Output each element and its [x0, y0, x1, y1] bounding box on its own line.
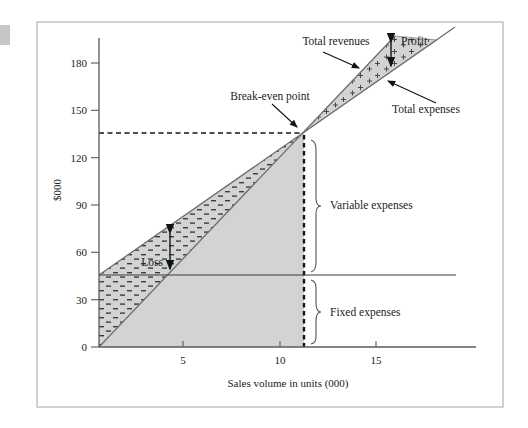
total-expenses-label: Total expenses — [392, 103, 460, 116]
variable-expenses-label: Variable expenses — [330, 199, 413, 212]
fixed-expenses-label: Fixed expenses — [330, 306, 401, 319]
page: 0 30 60 90 120 150 180 5 10 15 $000 Sale… — [0, 0, 528, 428]
y-tick-label-150: 150 — [71, 104, 88, 116]
break-even-chart: 0 30 60 90 120 150 180 5 10 15 $000 Sale… — [0, 0, 528, 428]
y-tick-label-30: 30 — [76, 294, 88, 306]
y-tick-label-120: 120 — [71, 152, 88, 164]
x-tick-label-15: 15 — [371, 354, 383, 366]
y-tick-label-180: 180 — [71, 57, 88, 69]
y-tick-label-90: 90 — [76, 199, 88, 211]
x-axis-title: Sales volume in units (000) — [228, 377, 349, 390]
total-revenues-label: Total revenues — [302, 35, 370, 47]
x-tick-label-10: 10 — [275, 354, 287, 366]
x-tick-label-5: 5 — [180, 354, 186, 366]
y-axis-title: $000 — [51, 179, 63, 202]
loss-label: Loss — [141, 256, 163, 268]
y-tick-label-0: 0 — [82, 341, 88, 353]
break-even-point-label: Break-even point — [230, 90, 310, 103]
profit-label: Profit — [401, 35, 428, 47]
y-tick-label-60: 60 — [76, 246, 88, 258]
